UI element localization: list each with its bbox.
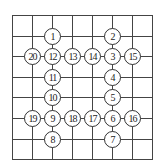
numbered-node: 19 xyxy=(24,110,41,127)
numbered-node: 5 xyxy=(104,89,121,106)
numbered-node: 3 xyxy=(104,48,121,65)
numbered-node: 7 xyxy=(104,131,121,148)
numbered-node: 14 xyxy=(84,48,101,65)
grid-horizontal-line xyxy=(12,159,153,160)
numbered-node: 1 xyxy=(44,28,61,45)
numbered-node: 18 xyxy=(64,110,81,127)
grid-horizontal-line xyxy=(12,15,153,16)
numbered-node: 13 xyxy=(64,48,81,65)
grid-horizontal-line xyxy=(12,97,153,98)
grid-horizontal-line xyxy=(12,139,153,140)
grid-horizontal-line xyxy=(12,36,153,37)
numbered-node: 17 xyxy=(84,110,101,127)
numbered-node: 8 xyxy=(44,131,61,148)
numbered-node: 12 xyxy=(44,48,61,65)
grid-horizontal-line xyxy=(12,77,153,78)
grid-board: 1220121314315114105199181761687 xyxy=(0,0,163,168)
numbered-node: 16 xyxy=(124,110,141,127)
numbered-node: 15 xyxy=(124,48,141,65)
numbered-node: 4 xyxy=(104,69,121,86)
numbered-node: 9 xyxy=(44,110,61,127)
numbered-node: 20 xyxy=(24,48,41,65)
numbered-node: 11 xyxy=(44,69,61,86)
numbered-node: 6 xyxy=(104,110,121,127)
numbered-node: 10 xyxy=(44,89,61,106)
numbered-node: 2 xyxy=(104,28,121,45)
